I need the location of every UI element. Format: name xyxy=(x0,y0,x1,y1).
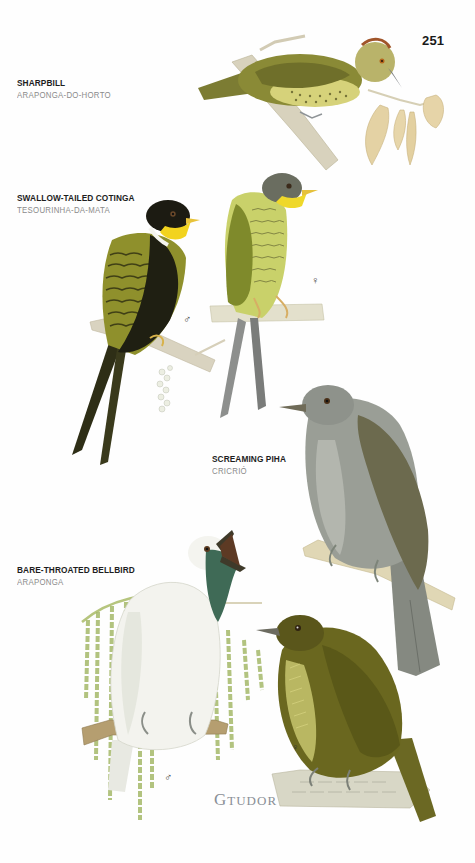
species-label-bare-throated-bellbird: BARE-THROATED BELLBIRD ARAPONGA xyxy=(17,565,145,587)
signature-surname: TUDOR xyxy=(227,793,277,808)
english-name: BARE-THROATED BELLBIRD xyxy=(17,565,135,575)
page-number: 251 xyxy=(422,33,444,48)
portuguese-name: TESOURINHA-DA-MATA xyxy=(17,205,135,215)
male-symbol-icon: ♂ xyxy=(164,772,172,783)
swallow-tailed-cotinga-male-illustration xyxy=(72,200,225,465)
sharpbill-illustration xyxy=(198,36,444,170)
swallow-tailed-cotinga-female-illustration xyxy=(210,173,324,418)
bird-illustrations xyxy=(0,0,475,863)
english-name: SCREAMING PIHA xyxy=(212,454,286,464)
portuguese-name: ARAPONGA-DO-HORTO xyxy=(17,90,111,100)
field-guide-page: 251 SHARPBILL ARAPONGA-DO-HORTO SWALLOW-… xyxy=(0,0,475,863)
artist-signature: GTUDOR xyxy=(214,790,277,810)
english-name: SHARPBILL xyxy=(17,78,111,88)
male-symbol-icon: ♂ xyxy=(183,314,191,325)
female-symbol-icon: ♀ xyxy=(291,742,299,753)
portuguese-name: ARAPONGA xyxy=(17,577,135,587)
species-label-sharpbill: SHARPBILL ARAPONGA-DO-HORTO xyxy=(17,78,119,100)
signature-initial: G xyxy=(214,790,227,809)
species-label-swallow-tailed-cotinga: SWALLOW-TAILED COTINGA TESOURINHA-DA-MAT… xyxy=(17,193,145,215)
species-label-screaming-piha: SCREAMING PIHA CRICRIÓ xyxy=(212,454,292,476)
portuguese-name: CRICRIÓ xyxy=(212,466,286,476)
female-symbol-icon: ♀ xyxy=(311,275,319,286)
english-name: SWALLOW-TAILED COTINGA xyxy=(17,193,135,203)
